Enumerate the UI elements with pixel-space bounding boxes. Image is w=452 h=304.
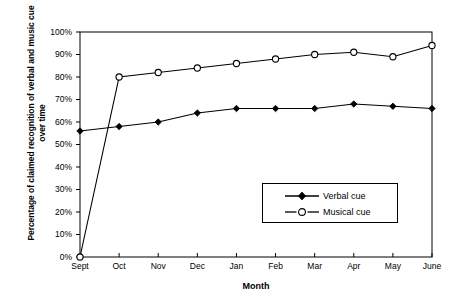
line-chart: Percentage of claimed recognition of ver… (0, 0, 452, 304)
legend-item-verbal-cue: Verbal cue (263, 188, 397, 204)
musical-cue-marker-icon (283, 205, 321, 219)
legend-label: Musical cue (323, 207, 371, 217)
legend-item-musical-cue: Musical cue (263, 204, 397, 220)
legend: Verbal cue Musical cue (262, 183, 398, 223)
data-series (77, 42, 435, 260)
verbal-cue-marker-icon (283, 189, 321, 203)
plot-area (0, 0, 452, 304)
x-axis-title: Month (80, 281, 432, 291)
axes (76, 32, 432, 257)
legend-label: Verbal cue (323, 191, 366, 201)
